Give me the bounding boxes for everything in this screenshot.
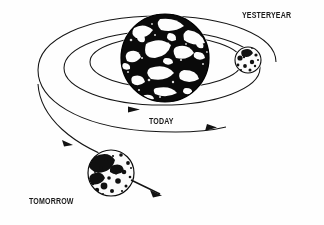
moon-yesteryear (235, 47, 261, 73)
label-yesteryear: YESTERYEAR (242, 11, 291, 20)
moon-tomorrow (88, 150, 134, 196)
arrowhead-outer-orbit (62, 140, 73, 147)
arrowhead-inner-orbit (128, 107, 140, 113)
recession-arrow (131, 180, 162, 198)
earth-globe (120, 13, 212, 105)
label-tomorrow: TOMORROW (29, 197, 74, 206)
orbit-direction-arrows (62, 107, 217, 147)
label-today: TODAY (149, 117, 174, 126)
orbit-diagram (0, 0, 324, 225)
recession-arrowhead (150, 190, 162, 198)
diagram-canvas: YESTERYEAR TODAY TOMORROW (0, 0, 324, 225)
